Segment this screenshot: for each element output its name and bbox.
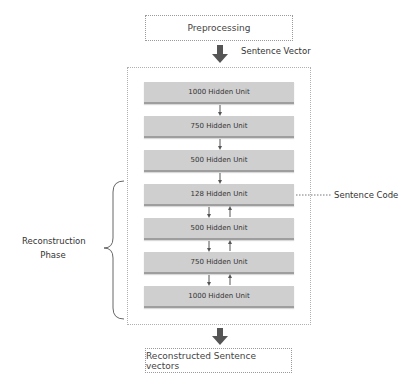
big-down-arrow-icon [212,328,228,345]
diagram-connectors [0,0,415,392]
curly-brace-icon [104,181,124,319]
bidirectional-arrows-icon [209,207,230,285]
big-down-arrow-icon [212,45,228,63]
